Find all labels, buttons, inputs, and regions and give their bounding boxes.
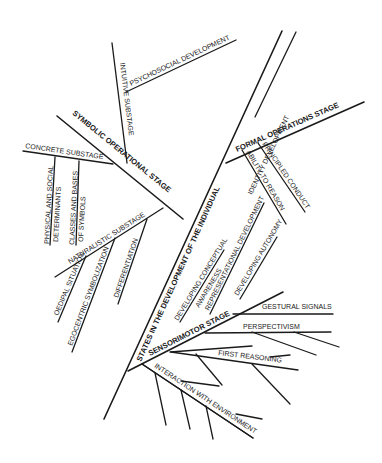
development-tree-diagram: STATES IN THE DEVELOPMENT OF THE INDIVID… xyxy=(0,0,382,463)
formal-stage-label: FORMAL OPERATIONS STAGE xyxy=(234,100,340,153)
symbolic-stage-branch: SYMBOLIC OPERATIONAL STAGE INTUITIVE SUB… xyxy=(23,33,236,352)
gestural-label: GESTURAL SIGNALS xyxy=(262,303,332,310)
perspectivism-label: PERSPECTIVISM xyxy=(243,323,300,330)
autonomy-label: DEVELOPING AUTONOMY xyxy=(233,218,284,297)
principled-label: PRINCIPLED CONDUCT xyxy=(261,141,312,211)
intuitive-substage-label: INTUITIVE SUBSTAGE xyxy=(119,62,135,136)
physical-social-label-2: DETERMINANTS xyxy=(52,186,62,242)
formal-stage-branch: FORMAL OPERATIONS STAGE IDENTITY DEVELOP… xyxy=(226,32,364,224)
differentiation-label: DIFFERENTIATION xyxy=(112,237,139,298)
psychosocial-label: PSYCHOSOCIAL DEVELOPMENT xyxy=(128,33,231,87)
classes-bases-label-2: OF SYMBOLS xyxy=(77,196,86,242)
interaction-label: INTERACTION WITH ENVIRONMENT xyxy=(153,362,258,435)
